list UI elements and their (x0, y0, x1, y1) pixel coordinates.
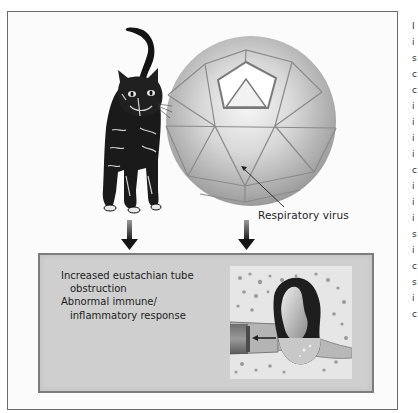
text-fragment: i (412, 114, 418, 130)
text-fragment: i (412, 146, 418, 162)
text-fragment: c (412, 258, 418, 274)
text-fragment: I (412, 18, 418, 34)
text-fragment: i (412, 242, 418, 258)
outcome-line: inflammatory response (61, 309, 194, 322)
cropped-side-text: I i s c c i i i i c i i i s i c s i c (412, 18, 418, 322)
arrow-down-icon (121, 220, 138, 250)
outcome-line: Abnormal immune/ (61, 295, 194, 308)
text-fragment: i (412, 290, 418, 306)
virus-label: Respiratory virus (258, 209, 349, 221)
text-fragment: s (412, 274, 418, 290)
text-fragment: i (412, 210, 418, 226)
virus-sphere-icon (166, 36, 336, 206)
text-fragment: c (412, 82, 418, 98)
middle-ear-icon (230, 266, 352, 379)
text-fragment: i (412, 194, 418, 210)
text-fragment: s (412, 50, 418, 66)
outcome-line: Increased eustachian tube (61, 269, 194, 282)
text-fragment: i (412, 130, 418, 146)
text-fragment: c (412, 66, 418, 82)
middle-ear-illustration (230, 266, 352, 379)
text-fragment: c (412, 162, 418, 178)
text-fragment: i (412, 98, 418, 114)
cat-icon (103, 27, 172, 213)
text-fragment: i (412, 34, 418, 50)
text-fragment: s (412, 226, 418, 242)
text-fragment: i (412, 178, 418, 194)
text-fragment: c (412, 306, 418, 322)
arrow-down-icon (238, 220, 255, 250)
outcome-text: Increased eustachian tube obstruction Ab… (61, 269, 194, 322)
outcome-line: obstruction (61, 282, 194, 295)
